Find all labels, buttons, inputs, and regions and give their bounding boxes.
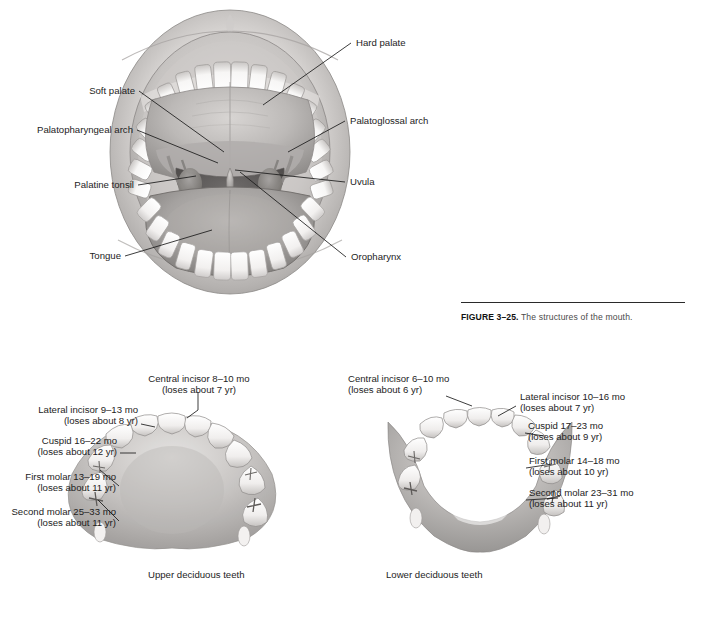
label-l-cuspid-name: Cuspid 17–23 mo	[528, 420, 603, 431]
label-l-central-incisor-name: Central incisor 6–10 mo	[348, 373, 449, 384]
label-oropharynx: Oropharynx	[351, 251, 401, 262]
label-u-second-molar-name: Second molar 25–33 mo	[11, 506, 116, 517]
label-u-second-molar-loses: (loses about 11 yr)	[37, 517, 116, 528]
label-uvula: Uvula	[350, 176, 375, 187]
label-l-central-incisor-loses: (loses about 6 yr)	[348, 384, 422, 395]
lower-deciduous-caption: Lower deciduous teeth	[386, 569, 483, 580]
label-soft-palate: Soft palate	[89, 85, 135, 96]
page-canvas: Hard palate Soft palate Palatopharyngeal…	[0, 0, 702, 621]
mouth-illustration: Hard palate Soft palate Palatopharyngeal…	[0, 0, 460, 300]
figure-caption: FIGURE 3–25. The structures of the mouth…	[461, 312, 685, 323]
label-u-cuspid-name: Cuspid 16–22 mo	[42, 435, 117, 446]
lower-deciduous-teeth-illustration: Central incisor 6–10 mo (loses about 6 y…	[330, 370, 670, 560]
label-l-second-molar-loses: (loses about 11 yr)	[529, 498, 608, 509]
label-u-lateral-incisor-name: Lateral incisor 9–13 mo	[38, 404, 138, 415]
label-u-first-molar-name: First molar 13–19 mo	[25, 471, 116, 482]
figure-number: FIGURE 3–25.	[461, 312, 519, 322]
upper-deciduous-caption: Upper deciduous teeth	[148, 569, 245, 580]
upper-deciduous-teeth-illustration: Central incisor 8–10 mo (loses about 7 y…	[10, 370, 330, 560]
label-l-second-molar-name: Second molar 23–31 mo	[529, 487, 634, 498]
leader-u-central-incisor	[187, 392, 198, 418]
caption-divider	[461, 302, 685, 303]
label-u-central-incisor-loses: (loses about 7 yr)	[162, 384, 236, 395]
label-l-first-molar-name: First molar 14–18 mo	[529, 455, 620, 466]
label-tongue: Tongue	[90, 250, 121, 261]
label-palatine-tonsil: Palatine tonsil	[74, 179, 134, 190]
label-l-first-molar-loses: (loses about 10 yr)	[529, 466, 608, 477]
label-l-lateral-incisor-loses: (loses about 7 yr)	[520, 402, 594, 413]
figure-caption-text: The structures of the mouth.	[519, 312, 633, 322]
label-u-lateral-incisor-loses: (loses about 8 yr)	[64, 415, 138, 426]
label-palatopharyngeal-arch: Palatopharyngeal arch	[37, 124, 133, 135]
label-u-cuspid-loses: (loses about 12 yr)	[38, 446, 117, 457]
label-hard-palate: Hard palate	[356, 37, 406, 48]
label-l-lateral-incisor-name: Lateral incisor 10–16 mo	[520, 391, 625, 402]
label-l-cuspid-loses: (loses about 9 yr)	[528, 431, 602, 442]
figure-caption-block: FIGURE 3–25. The structures of the mouth…	[461, 302, 685, 323]
label-u-central-incisor-name: Central incisor 8–10 mo	[148, 373, 249, 384]
label-palatoglossal-arch: Palatoglossal arch	[350, 115, 428, 126]
leader-l-central-incisor	[446, 396, 472, 406]
label-u-first-molar-loses: (loses about 11 yr)	[37, 482, 116, 493]
